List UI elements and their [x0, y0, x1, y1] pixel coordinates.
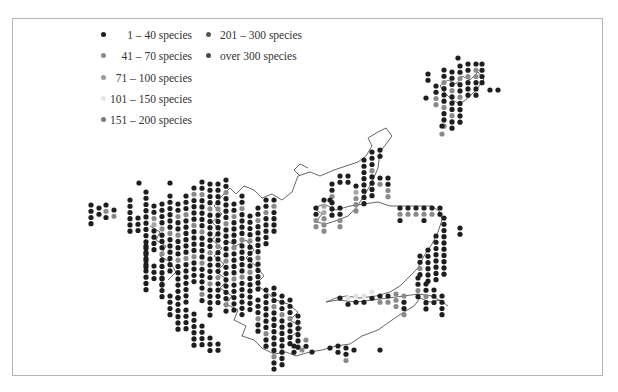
species-dot: [183, 212, 188, 217]
species-dot: [175, 289, 180, 294]
species-dot: [199, 198, 204, 203]
species-dot: [369, 181, 374, 186]
species-dot: [231, 307, 236, 312]
species-dot: [191, 192, 196, 197]
species-dot: [175, 220, 180, 225]
species-dot: [183, 314, 188, 319]
species-dot: [239, 306, 244, 311]
species-dot: [167, 206, 172, 211]
species-dot: [441, 99, 446, 104]
species-dot: [271, 323, 276, 328]
species-dot: [353, 208, 358, 213]
species-dot: [441, 111, 446, 116]
species-dot: [159, 201, 164, 206]
species-dot: [199, 179, 204, 184]
species-dot: [231, 276, 236, 281]
species-dot: [231, 220, 236, 225]
species-dot: [449, 69, 454, 74]
species-dot: [191, 204, 196, 209]
species-dot: [279, 337, 284, 342]
species-dot: [239, 262, 244, 267]
species-dot: [247, 226, 252, 231]
species-dot: [247, 263, 252, 268]
species-dot: [88, 209, 93, 214]
species-dot: [449, 82, 454, 87]
species-dot: [255, 297, 260, 302]
species-dot: [361, 164, 366, 169]
species-dot: [329, 188, 334, 193]
species-dot: [397, 218, 402, 223]
species-dot: [223, 215, 228, 220]
species-dot: [425, 254, 430, 259]
species-dot: [329, 181, 334, 186]
species-dot: [215, 213, 220, 218]
species-dot: [255, 237, 260, 242]
species-dot: [231, 301, 236, 306]
species-dot: [425, 247, 430, 252]
species-dot: [279, 293, 284, 298]
species-dot: [369, 149, 374, 154]
species-dot: [385, 300, 390, 305]
species-dot: [199, 273, 204, 278]
species-dot: [223, 283, 228, 288]
species-dot: [143, 202, 148, 207]
species-dot: [433, 240, 438, 245]
species-dot: [377, 147, 382, 152]
species-dot: [441, 86, 446, 91]
species-dot: [361, 189, 366, 194]
species-dot: [223, 302, 228, 307]
species-dot: [457, 101, 462, 106]
species-dot: [415, 294, 420, 299]
species-dot: [271, 310, 276, 315]
species-dot: [353, 202, 358, 207]
species-dot: [287, 329, 292, 334]
species-dot: [361, 293, 366, 298]
species-dot: [175, 276, 180, 281]
species-dot: [413, 205, 418, 210]
species-dot: [345, 302, 350, 307]
species-dot: [167, 256, 172, 261]
species-dot: [327, 345, 332, 350]
species-dot: [215, 294, 220, 299]
species-dot: [207, 244, 212, 249]
species-dot: [199, 292, 204, 297]
species-dot: [183, 275, 188, 280]
species-dot: [239, 299, 244, 304]
species-dot: [287, 297, 292, 302]
species-dot: [263, 229, 268, 234]
species-dot: [143, 281, 148, 286]
species-dot: [361, 201, 366, 206]
species-dot: [88, 221, 93, 226]
species-dot: [223, 277, 228, 282]
species-dot: [271, 216, 276, 221]
species-dot: [215, 194, 220, 199]
species-dot: [175, 214, 180, 219]
species-dot: [223, 271, 228, 276]
species-dot: [263, 306, 268, 311]
species-dot: [369, 187, 374, 192]
species-dot: [183, 287, 188, 292]
species-dot: [309, 349, 314, 354]
species-dot: [439, 293, 444, 298]
species-dot: [183, 231, 188, 236]
species-dot: [313, 224, 318, 229]
species-dot: [143, 233, 148, 238]
species-dot: [255, 218, 260, 223]
species-dot: [457, 95, 462, 100]
species-dot: [207, 287, 212, 292]
species-dot: [247, 307, 252, 312]
species-dot: [255, 255, 260, 260]
species-dot: [377, 154, 382, 159]
species-dot: [313, 218, 318, 223]
species-dot: [143, 227, 148, 232]
species-dot: [433, 252, 438, 257]
species-dot: [335, 350, 340, 355]
species-dot: [175, 308, 180, 313]
species-dot: [465, 80, 470, 85]
species-dot: [207, 335, 212, 340]
species-dot: [353, 300, 358, 305]
coastline: [222, 128, 392, 200]
species-dot: [207, 300, 212, 305]
species-dot: [96, 205, 101, 210]
species-dot: [439, 123, 444, 128]
